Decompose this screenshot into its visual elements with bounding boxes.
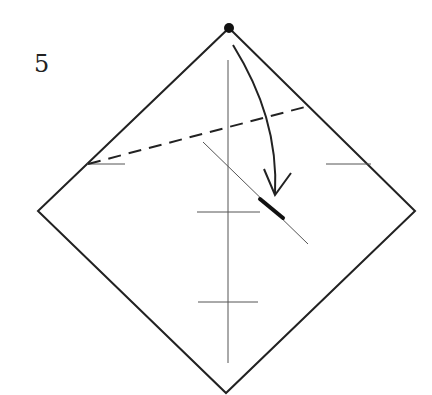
corner-dot-icon bbox=[224, 23, 234, 33]
diagonal-crease bbox=[203, 142, 308, 244]
origami-diagram bbox=[0, 0, 432, 395]
landmark-segment bbox=[260, 199, 283, 218]
arrowhead-icon bbox=[264, 169, 291, 195]
valley-fold-line bbox=[88, 107, 305, 164]
paper-outline bbox=[38, 28, 415, 393]
